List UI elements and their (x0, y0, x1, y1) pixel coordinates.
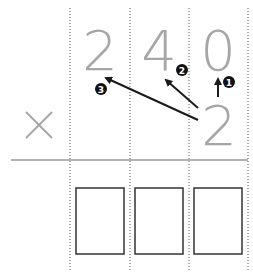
multiplication-diagram: 2 4 0 2 1 2 3 (0, 0, 253, 272)
digit-ones: 0 (200, 18, 236, 83)
step-badge-1: 1 (223, 76, 235, 88)
svg-text:2: 2 (179, 66, 185, 76)
digit-tens: 4 (141, 18, 177, 83)
arrow-step-3 (106, 78, 198, 120)
svg-text:1: 1 (226, 78, 232, 88)
svg-text:3: 3 (98, 85, 104, 95)
times-icon (26, 112, 52, 138)
arrow-step-2 (166, 80, 198, 108)
answer-box-tens[interactable] (135, 188, 183, 254)
multiplier-digit: 2 (201, 93, 237, 158)
answer-box-hundreds[interactable] (76, 188, 124, 254)
step-badge-2: 2 (176, 64, 188, 76)
answer-box-ones[interactable] (194, 188, 242, 254)
step-badge-3: 3 (95, 83, 107, 95)
digit-hundreds: 2 (82, 18, 118, 83)
